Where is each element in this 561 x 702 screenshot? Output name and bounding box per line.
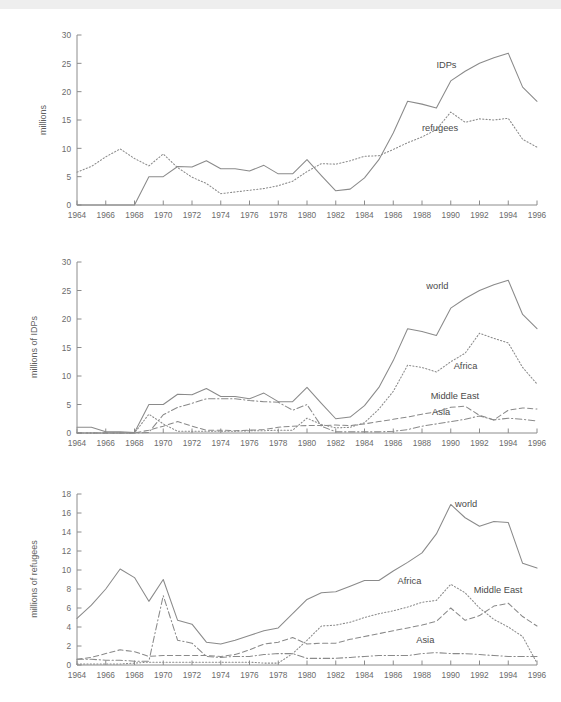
series-line-asia xyxy=(77,399,537,433)
series-label-middle-east: Middle East xyxy=(431,391,480,401)
x-tick-label: 1988 xyxy=(413,670,432,680)
y-tick-label: 0 xyxy=(66,428,71,438)
x-tick-label: 1992 xyxy=(470,670,489,680)
series-label-africa: Africa xyxy=(398,576,423,586)
x-tick-label: 1986 xyxy=(384,438,403,448)
x-tick-label: 1994 xyxy=(499,438,518,448)
y-tick-label: 25 xyxy=(62,286,72,296)
chart-panel-idps: 0510152025301964196619681970197219741976… xyxy=(0,240,561,468)
y-tick-label: 4 xyxy=(66,622,71,632)
y-tick-label: 10 xyxy=(62,144,72,154)
x-tick-label: 1982 xyxy=(327,670,346,680)
x-tick-label: 1982 xyxy=(327,210,346,220)
top-grey-band xyxy=(0,0,561,9)
x-tick-label: 1988 xyxy=(413,438,432,448)
y-axis-title: millions of IDPs xyxy=(29,315,39,378)
y-tick-label: 12 xyxy=(62,546,72,556)
x-tick-label: 1970 xyxy=(154,438,173,448)
x-tick-label: 1990 xyxy=(442,438,461,448)
x-tick-label: 1978 xyxy=(269,670,288,680)
x-tick-label: 1964 xyxy=(68,670,87,680)
y-tick-label: 20 xyxy=(62,314,72,324)
x-tick-label: 1966 xyxy=(97,670,116,680)
series-line-idps xyxy=(77,53,537,205)
x-tick-label: 1974 xyxy=(212,438,231,448)
y-tick-label: 5 xyxy=(66,400,71,410)
x-tick-label: 1974 xyxy=(212,210,231,220)
x-tick-label: 1980 xyxy=(298,670,317,680)
chart-svg-idps: 0510152025301964196619681970197219741976… xyxy=(0,240,561,468)
y-tick-label: 15 xyxy=(62,343,72,353)
series-line-world xyxy=(77,280,537,432)
x-tick-label: 1986 xyxy=(384,670,403,680)
x-tick-label: 1986 xyxy=(384,210,403,220)
x-tick-label: 1968 xyxy=(125,438,144,448)
x-tick-label: 1982 xyxy=(327,438,346,448)
y-tick-label: 10 xyxy=(62,371,72,381)
x-tick-label: 1990 xyxy=(442,670,461,680)
x-tick-label: 1990 xyxy=(442,210,461,220)
x-tick-label: 1996 xyxy=(528,210,547,220)
y-tick-label: 15 xyxy=(62,115,72,125)
x-tick-label: 1966 xyxy=(97,210,116,220)
series-line-africa xyxy=(77,333,537,433)
x-tick-label: 1964 xyxy=(68,210,87,220)
x-tick-label: 1972 xyxy=(183,438,202,448)
x-tick-label: 1994 xyxy=(499,210,518,220)
y-tick-label: 5 xyxy=(66,172,71,182)
series-line-middle-east xyxy=(77,603,537,659)
x-tick-label: 1984 xyxy=(355,670,374,680)
x-tick-label: 1972 xyxy=(183,210,202,220)
y-tick-label: 16 xyxy=(62,508,72,518)
y-tick-label: 25 xyxy=(62,59,72,69)
x-tick-label: 1984 xyxy=(355,210,374,220)
x-tick-label: 1972 xyxy=(183,670,202,680)
x-tick-label: 1978 xyxy=(269,210,288,220)
x-tick-label: 1994 xyxy=(499,670,518,680)
x-tick-label: 1980 xyxy=(298,438,317,448)
y-tick-label: 18 xyxy=(62,489,72,499)
series-line-world xyxy=(77,504,537,644)
series-label-asia: Asia xyxy=(432,407,451,417)
x-tick-label: 1976 xyxy=(240,210,259,220)
y-axis-title: millions xyxy=(38,105,48,136)
chart-panel-refugees: 0246810121416181964196619681970197219741… xyxy=(0,468,561,702)
x-tick-label: 1992 xyxy=(470,210,489,220)
chart-panel-overview: 0510152025301964196619681970197219741976… xyxy=(0,9,561,240)
y-tick-label: 2 xyxy=(66,641,71,651)
y-tick-label: 6 xyxy=(66,603,71,613)
y-tick-label: 8 xyxy=(66,584,71,594)
x-tick-label: 1970 xyxy=(154,670,173,680)
series-label-middle-east: Middle East xyxy=(474,585,523,595)
x-tick-label: 1996 xyxy=(528,670,547,680)
series-line-asia xyxy=(77,596,537,662)
y-tick-label: 0 xyxy=(66,660,71,670)
y-tick-label: 30 xyxy=(62,30,72,40)
x-tick-label: 1992 xyxy=(470,438,489,448)
x-tick-label: 1966 xyxy=(97,438,116,448)
y-tick-label: 10 xyxy=(62,565,72,575)
x-tick-label: 1980 xyxy=(298,210,317,220)
x-tick-label: 1976 xyxy=(240,670,259,680)
x-tick-label: 1970 xyxy=(154,210,173,220)
y-tick-label: 14 xyxy=(62,527,72,537)
x-tick-label: 1968 xyxy=(125,670,144,680)
x-tick-label: 1978 xyxy=(269,438,288,448)
x-tick-label: 1976 xyxy=(240,438,259,448)
series-label-world: world xyxy=(425,281,448,291)
chart-svg-overview: 0510152025301964196619681970197219741976… xyxy=(0,9,561,240)
x-tick-label: 1974 xyxy=(212,670,231,680)
series-label-africa: Africa xyxy=(454,361,479,371)
y-tick-label: 20 xyxy=(62,87,72,97)
y-tick-label: 30 xyxy=(62,257,72,267)
x-tick-label: 1984 xyxy=(355,438,374,448)
chart-svg-refugees: 0246810121416181964196619681970197219741… xyxy=(0,468,561,702)
x-tick-label: 1996 xyxy=(528,438,547,448)
series-label-idps: IDPs xyxy=(436,60,456,70)
series-label-refugees: refugees xyxy=(422,123,459,133)
y-axis-title: millions of refugees xyxy=(29,540,39,618)
y-tick-label: 0 xyxy=(66,200,71,210)
x-tick-label: 1968 xyxy=(125,210,144,220)
series-label-asia: Asia xyxy=(416,635,435,645)
series-label-world: world xyxy=(454,499,477,509)
